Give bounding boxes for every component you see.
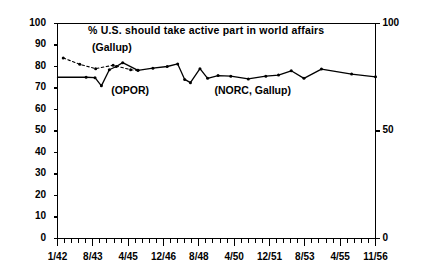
- series-point-0-2: [94, 67, 97, 70]
- chart-annotation-1: (OPOR): [111, 84, 149, 96]
- series-point-1-10: [176, 62, 179, 65]
- series-point-0-1: [78, 63, 81, 66]
- series-point-1-11: [183, 78, 186, 81]
- series-point-1-23: [350, 73, 353, 76]
- y-axis-label-left-80: 80: [16, 60, 46, 71]
- series-point-1-20: [290, 69, 293, 72]
- series-point-1-9: [166, 65, 169, 68]
- y-axis-label-right-100: 100: [383, 17, 413, 28]
- series-point-1-24: [374, 75, 377, 78]
- y-axis-label-left-50: 50: [16, 124, 46, 135]
- chart-title: % U.S. should take active part in world …: [88, 24, 324, 36]
- series-point-0-0: [62, 56, 65, 59]
- series-point-1-13: [198, 67, 201, 70]
- y-axis-label-right-0: 0: [383, 232, 413, 243]
- series-point-1-7: [136, 69, 139, 72]
- series-point-1-3: [100, 84, 103, 87]
- y-axis-label-left-0: 0: [16, 232, 46, 243]
- series-point-1-5: [115, 65, 118, 68]
- y-axis-label-left-100: 100: [16, 17, 46, 28]
- series-point-1-8: [151, 67, 154, 70]
- y-axis-label-left-90: 90: [16, 38, 46, 49]
- y-axis-label-left-40: 40: [16, 146, 46, 157]
- series-point-1-16: [229, 75, 232, 78]
- y-axis-label-left-10: 10: [16, 210, 46, 221]
- series-point-1-4: [108, 68, 111, 71]
- series-point-0-3: [112, 64, 115, 67]
- y-axis-label-left-30: 30: [16, 167, 46, 178]
- y-axis-label-left-20: 20: [16, 189, 46, 200]
- series-point-1-22: [320, 68, 323, 71]
- chart-annotation-0: (Gallup): [92, 41, 132, 53]
- series-point-1-21: [302, 77, 305, 80]
- series-point-1-15: [217, 74, 220, 77]
- y-axis-label-left-60: 60: [16, 103, 46, 114]
- y-axis-label-left-70: 70: [16, 81, 46, 92]
- chart-canvas: [0, 0, 423, 278]
- series-point-1-1: [85, 76, 88, 79]
- series-point-1-18: [264, 75, 267, 78]
- series-point-1-12: [189, 81, 192, 84]
- series-point-1-19: [277, 74, 280, 77]
- series-line-1: [58, 63, 376, 86]
- x-axis-label-9: 11/56: [354, 251, 398, 262]
- series-point-1-2: [94, 76, 97, 79]
- y-axis-label-right-50: 50: [383, 124, 413, 135]
- series-point-1-14: [206, 77, 209, 80]
- series-point-1-17: [247, 77, 250, 80]
- series-point-0-4: [129, 68, 132, 71]
- series-point-1-6: [121, 61, 124, 64]
- chart-annotation-2: (NORC, Gallup): [215, 84, 291, 96]
- chart-root: 01020304050607080901000501001/428/434/45…: [0, 0, 423, 278]
